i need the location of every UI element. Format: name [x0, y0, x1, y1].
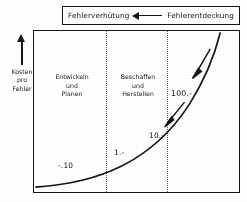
cost-label-10: 10.-	[149, 131, 164, 140]
cost-label-100: 100.-	[171, 89, 192, 98]
header-banner: Fehlerverhütung Fehlerentdeckung	[62, 6, 240, 25]
arrow-shaft	[137, 15, 162, 16]
left-arrow-icon	[132, 11, 164, 20]
cost-label-0-10: -.10	[58, 161, 73, 170]
header-term-prevention: Fehlerverhütung	[68, 11, 129, 20]
y-axis-line	[21, 41, 23, 65]
pointer-arrow-lower	[165, 102, 185, 127]
chart-plot-area: Entwickeln und Planen Beschaffen und Her…	[33, 30, 240, 193]
cost-label-1: 1.-	[114, 148, 124, 157]
header-term-detection: Fehlerentdeckung	[167, 11, 234, 20]
cost-per-defect-diagram: Fehlerverhütung Fehlerentdeckung Kosten …	[0, 0, 247, 202]
pointer-arrow-upper	[192, 49, 210, 79]
